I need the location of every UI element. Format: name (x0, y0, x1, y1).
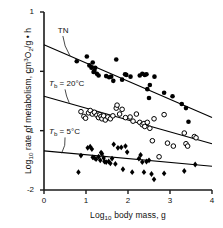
x-tick-label: 3 (163, 196, 177, 205)
y-axis-title: Log10 rate of metabolism, cm3O2/g • h (23, 21, 33, 181)
y-tick-label: -2 (18, 185, 34, 194)
x-axis-title: Log10 body mass, g (44, 210, 212, 220)
x-tick-label: 0 (37, 196, 51, 205)
x-tick-label: 4 (205, 196, 219, 205)
annotation-tb-5c: Tb = 5°C (49, 127, 80, 136)
metabolism-scatter-figure: 1 0 -1 -2 0 1 2 3 4 Log10 rate of metabo… (0, 0, 223, 228)
axes (40, 12, 212, 194)
x-tick-label: 2 (121, 196, 135, 205)
annotation-tn: TN (58, 26, 69, 35)
x-tick-label: 1 (79, 196, 93, 205)
annotation-tb-20c: Tb = 20°C (49, 79, 84, 88)
y-tick-label: 1 (18, 7, 34, 16)
